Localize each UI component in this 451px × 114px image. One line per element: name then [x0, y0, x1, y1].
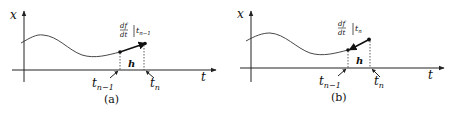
svg-text:dt: dt [338, 29, 345, 37]
derivative-label: df dt tn−1 [120, 22, 151, 39]
step-size-label: h [128, 58, 135, 69]
svg-text:tn−1: tn−1 [136, 26, 151, 36]
panel-a: x t h tn−1 tn df dt tn−1 (a) [10, 8, 216, 106]
svg-text:dt: dt [120, 31, 127, 39]
point-t-n [143, 42, 147, 46]
t-axis-label: t [201, 70, 206, 84]
label-t-n-minus-1: tn−1 [319, 74, 341, 90]
svg-text:df: df [338, 20, 346, 28]
label-t-n: tn [150, 76, 160, 92]
derivative-label: df dt tn [338, 20, 362, 37]
caption-b: (b) [331, 91, 347, 104]
derivative-step-arrow [120, 44, 145, 53]
step-size-label: h [356, 55, 363, 66]
leader-t-n-minus-1 [110, 71, 118, 78]
svg-text:df: df [120, 22, 128, 30]
y-axis-label: x [10, 8, 17, 22]
svg-text:tn: tn [355, 24, 362, 34]
leader-t-n-minus-1 [338, 69, 346, 76]
solution-curve [246, 33, 348, 55]
y-axis-label: x [237, 7, 244, 21]
euler-method-diagram: x t h tn−1 tn df dt tn−1 (a) [0, 0, 451, 114]
panel-b: x t h tn−1 tn df dt tn (b) [237, 7, 444, 104]
derivative-step-arrow [350, 40, 369, 50]
label-t-n-minus-1: tn−1 [92, 76, 114, 92]
t-axis-label: t [428, 68, 433, 82]
solution-curve [21, 35, 120, 57]
caption-a: (a) [104, 93, 119, 106]
